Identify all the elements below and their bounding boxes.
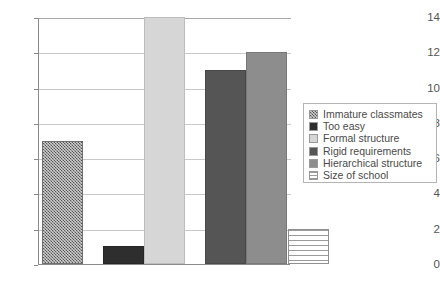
legend-item: Rigid requirements: [309, 145, 431, 157]
legend-item-label: Immature classmates: [323, 109, 423, 120]
bar: [246, 52, 287, 264]
bar: [288, 229, 329, 264]
y-axis-tick-label: 12: [410, 47, 440, 59]
legend-swatch-icon: [309, 159, 318, 168]
legend-item-label: Formal structure: [323, 133, 399, 144]
legend-item: Immature classmates: [309, 108, 431, 120]
bar: [144, 17, 185, 264]
y-axis-tick-label: 4: [410, 188, 440, 200]
y-axis-tick-label: 0: [410, 259, 440, 271]
legend-swatch-icon: [309, 134, 318, 143]
y-axis-tick-mark: [34, 265, 38, 266]
chart-legend: Immature classmatesToo easyFormal struct…: [303, 103, 437, 183]
y-axis-tick-label: 10: [410, 83, 440, 95]
legend-item: Too easy: [309, 120, 431, 132]
y-axis-tick-label: 14: [410, 12, 440, 24]
legend-item: Formal structure: [309, 133, 431, 145]
bar: [42, 141, 83, 265]
legend-swatch-icon: [309, 147, 318, 156]
legend-swatch-icon: [309, 110, 318, 119]
y-axis-tick-label: 2: [410, 224, 440, 236]
bar: [103, 246, 144, 264]
plot-area: [38, 18, 290, 265]
legend-swatch-icon: [309, 122, 318, 131]
legend-item-label: Too easy: [323, 121, 365, 132]
bar-chart: 14121086420 Immature classmatesToo easyF…: [0, 0, 440, 287]
legend-item-label: Hierarchical structure: [323, 158, 422, 169]
legend-item-label: Rigid requirements: [323, 146, 411, 157]
bar: [205, 70, 246, 264]
legend-swatch-icon: [309, 171, 318, 180]
legend-item: Size of school: [309, 170, 431, 182]
legend-item-label: Size of school: [323, 170, 388, 181]
legend-item: Hierarchical structure: [309, 158, 431, 170]
